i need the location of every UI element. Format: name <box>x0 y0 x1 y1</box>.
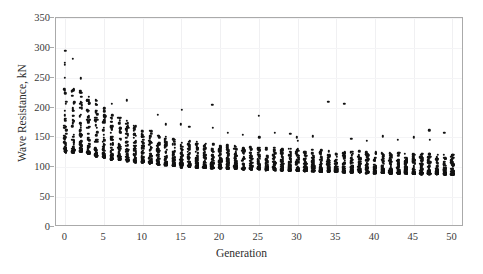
figure-scatter-convergence: 050100150200250300350 051015202530354045… <box>0 0 483 274</box>
x-axis-tick-label: 50 <box>446 231 457 242</box>
x-axis-tick-labels: 05101520253035404550 <box>0 0 483 274</box>
x-axis-tick-label: 45 <box>407 231 418 242</box>
x-axis-tick-label: 25 <box>253 231 264 242</box>
x-axis-tick-label: 15 <box>175 231 186 242</box>
x-axis-tick-label: 20 <box>214 231 225 242</box>
x-axis-tick-label: 40 <box>369 231 380 242</box>
x-axis-tick-label: 10 <box>136 231 147 242</box>
x-axis-tick-label: 0 <box>62 231 67 242</box>
x-axis-tick-label: 30 <box>291 231 302 242</box>
y-axis-title: Wave Resistance, kN <box>16 33 28 193</box>
x-axis-tick-label: 35 <box>330 231 341 242</box>
x-axis-title: Generation <box>0 247 483 259</box>
x-axis-tick-label: 5 <box>100 231 105 242</box>
